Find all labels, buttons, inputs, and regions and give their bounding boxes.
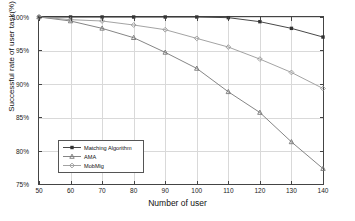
y-tick-mark [320,151,324,152]
x-tick-label: 80 [119,187,149,194]
x-tick-mark [323,17,324,21]
legend-marker-square [62,143,82,152]
x-tick-mark [197,181,198,185]
x-tick-mark [39,181,40,185]
legend-marker-diamond [62,161,82,170]
y-tick-label: 85% [0,114,29,121]
x-tick-mark [260,17,261,21]
x-tick-mark [39,17,40,21]
y-tick-label: 95% [0,47,29,54]
y-tick-mark [38,84,42,85]
legend-label: AMA [84,154,96,160]
y-tick-label: 100% [0,14,29,21]
x-tick-mark [165,181,166,185]
legend: Matching AlgorithmAMAMobMig [58,140,144,173]
x-tick-label: 50 [24,187,54,194]
x-tick-mark [134,181,135,185]
x-tick-mark [71,181,72,185]
x-tick-label: 120 [245,187,275,194]
x-tick-mark [228,181,229,185]
legend-marker-triangle [62,152,82,161]
x-tick-mark [102,181,103,185]
x-tick-mark [291,181,292,185]
series-line-mobmig [39,17,323,88]
x-tick-mark [134,17,135,21]
x-tick-mark [323,181,324,185]
y-tick-mark [320,117,324,118]
y-tick-label: 80% [0,147,29,154]
legend-item-ama[interactable]: AMA [62,152,140,161]
x-tick-label: 60 [56,187,86,194]
y-tick-mark [320,50,324,51]
legend-item-mobmig[interactable]: MobMig [62,161,140,170]
y-tick-mark [38,50,42,51]
data-point-square [70,146,73,149]
x-tick-label: 110 [213,187,243,194]
x-tick-label: 130 [276,187,306,194]
x-tick-mark [165,17,166,21]
x-tick-mark [228,17,229,21]
chart-figure: Successful rate of user task(%) Number o… [0,0,355,221]
x-tick-mark [71,17,72,21]
legend-label: Matching Algorithm [84,145,132,151]
x-tick-mark [260,181,261,185]
data-point-square [290,27,293,30]
x-axis-label: Number of user [0,198,355,208]
x-tick-label: 140 [308,187,338,194]
y-tick-mark [38,117,42,118]
y-tick-label: 90% [0,80,29,87]
legend-label: MobMig [84,163,104,169]
y-tick-mark [320,84,324,85]
x-tick-label: 70 [87,187,117,194]
x-tick-mark [102,17,103,21]
y-tick-mark [38,151,42,152]
x-tick-mark [197,17,198,21]
data-point-square [321,35,324,38]
x-tick-label: 90 [150,187,180,194]
x-tick-mark [291,17,292,21]
x-tick-label: 100 [182,187,212,194]
legend-item-matching-algorithm[interactable]: Matching Algorithm [62,143,140,152]
